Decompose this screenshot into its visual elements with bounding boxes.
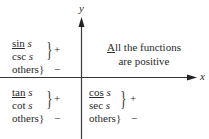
q3-fn-others: others bbox=[12, 112, 39, 124]
q4-var: s bbox=[106, 86, 110, 98]
quadrant-4-signs: cos s sec s others} } + − bbox=[89, 86, 121, 125]
q3-fn-tan: tan bbox=[12, 86, 25, 98]
q4-fn-sec: sec bbox=[89, 99, 103, 111]
q2-fn-csc: csc bbox=[12, 50, 26, 62]
q2-brace-icon: } bbox=[46, 38, 52, 60]
q3-row-others: others} bbox=[12, 112, 44, 125]
q3-brace-small: } bbox=[39, 112, 44, 124]
q4-brace-small: } bbox=[116, 112, 121, 124]
q2-fn-sin: sin bbox=[12, 37, 25, 49]
q2-negative-sign: − bbox=[54, 63, 60, 75]
q4-row-others: others} bbox=[89, 112, 121, 125]
q3-var: s bbox=[28, 99, 32, 111]
q2-var: s bbox=[28, 37, 32, 49]
q3-fn-cot: cot bbox=[12, 99, 25, 111]
q3-positive-sign: + bbox=[54, 92, 60, 104]
q3-negative-sign: − bbox=[54, 112, 60, 124]
q3-brace-icon: } bbox=[46, 87, 52, 109]
q3-var: s bbox=[28, 86, 32, 98]
q2-row-csc: csc s bbox=[12, 50, 44, 63]
q1-line-2: are positive bbox=[92, 54, 196, 68]
q2-row-sin: sin s bbox=[12, 37, 44, 50]
q4-fn-others: others bbox=[89, 112, 116, 124]
x-axis-label: x bbox=[200, 70, 205, 82]
q4-brace-icon: } bbox=[120, 87, 126, 109]
q4-positive-sign: + bbox=[130, 92, 136, 104]
q4-var: s bbox=[106, 99, 110, 111]
y-axis-arrow-icon bbox=[79, 17, 85, 27]
x-axis-arrow-icon bbox=[187, 75, 197, 81]
q2-brace-small: } bbox=[39, 63, 44, 75]
quadrant-2-signs: sin s csc s others} } + − bbox=[12, 37, 44, 76]
q2-var: s bbox=[29, 50, 33, 62]
quadrant-1-note: All the functions are positive bbox=[92, 40, 196, 68]
y-axis-label: y bbox=[79, 2, 84, 14]
q3-row-tan: tan s bbox=[12, 86, 44, 99]
q4-fn-cos: cos bbox=[89, 86, 104, 98]
q4-row-sec: sec s bbox=[89, 99, 121, 112]
q4-row-cos: cos s bbox=[89, 86, 121, 99]
q2-fn-others: others bbox=[12, 63, 39, 75]
q3-row-cot: cot s bbox=[12, 99, 44, 112]
q2-row-others: others} bbox=[12, 63, 44, 76]
q4-negative-sign: − bbox=[131, 112, 137, 124]
quadrant-3-signs: tan s cot s others} } + − bbox=[12, 86, 44, 125]
q1-line-1: All the functions bbox=[92, 40, 196, 54]
q2-positive-sign: + bbox=[54, 43, 60, 55]
